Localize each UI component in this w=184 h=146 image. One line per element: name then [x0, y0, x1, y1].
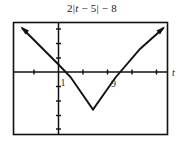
plot-frame: [14, 23, 168, 135]
x-intercept-label-1: 1: [61, 77, 66, 88]
graph-figure: 2|t − 5| − 8: [0, 0, 184, 146]
plot-canvas: 1 9 t: [0, 0, 184, 146]
x-intercept-label-9: 9: [111, 78, 116, 89]
x-axis-label: t: [172, 67, 175, 78]
